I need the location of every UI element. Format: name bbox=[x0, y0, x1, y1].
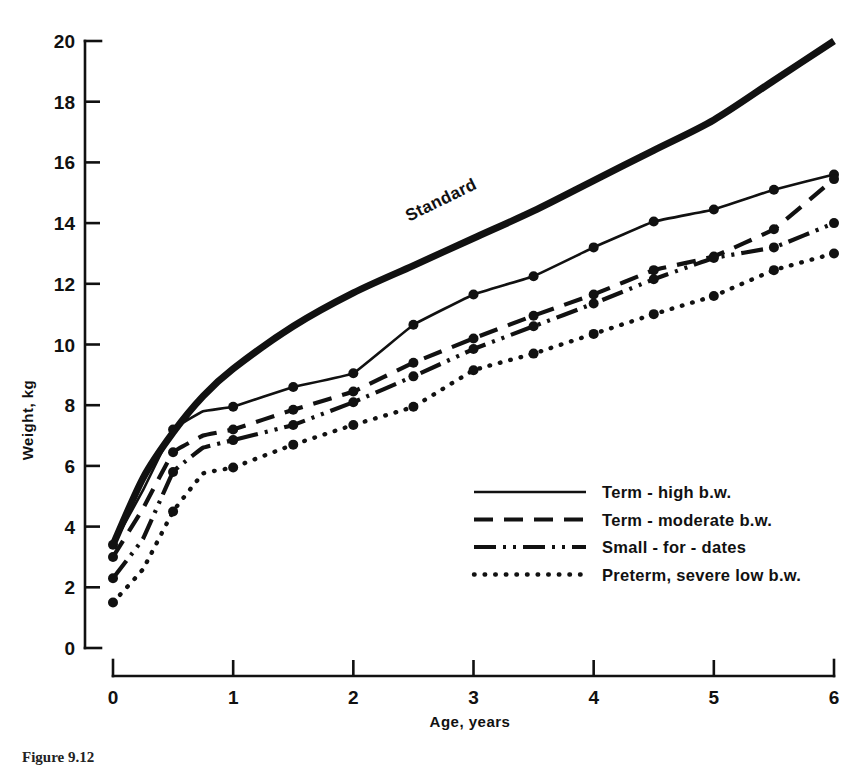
legend-item: Small - for - dates bbox=[474, 538, 746, 556]
data-point-marker bbox=[168, 447, 178, 457]
figure-container: 024681012141618200123456 Standard Term -… bbox=[0, 0, 858, 765]
x-tick-label: 1 bbox=[228, 687, 239, 708]
x-tick-label: 5 bbox=[709, 687, 720, 708]
legend-item: Preterm, severe low b.w. bbox=[474, 566, 801, 584]
y-tick-label: 14 bbox=[54, 213, 76, 234]
y-tick-label: 4 bbox=[64, 517, 75, 538]
legend-item-label: Term - moderate b.w. bbox=[602, 511, 772, 529]
data-point-marker bbox=[529, 311, 539, 321]
axes-group: 024681012141618200123456 bbox=[54, 31, 839, 708]
data-point-marker bbox=[589, 242, 599, 252]
data-point-marker bbox=[529, 349, 539, 359]
data-point-marker bbox=[709, 291, 719, 301]
y-tick-label: 8 bbox=[64, 395, 75, 416]
data-point-marker bbox=[348, 387, 358, 397]
data-point-marker bbox=[108, 597, 118, 607]
legend-item: Term - high b.w. bbox=[474, 483, 731, 501]
data-point-marker bbox=[408, 358, 418, 368]
y-axis-title: Weight, kg bbox=[19, 380, 36, 461]
data-point-marker bbox=[769, 185, 779, 195]
data-point-marker bbox=[589, 289, 599, 299]
y-tick-label: 18 bbox=[54, 92, 75, 113]
x-tick-label: 4 bbox=[588, 687, 599, 708]
data-point-marker bbox=[228, 424, 238, 434]
data-point-marker bbox=[108, 573, 118, 583]
data-point-marker bbox=[649, 217, 659, 227]
data-point-marker bbox=[168, 506, 178, 516]
growth-chart: 024681012141618200123456 Standard Term -… bbox=[0, 0, 858, 765]
y-tick-label: 0 bbox=[64, 638, 75, 659]
standard-curve-annotation: Standard bbox=[402, 175, 479, 226]
data-point-marker bbox=[408, 402, 418, 412]
x-axis-title: Age, years bbox=[430, 713, 511, 730]
annotation-group: Standard bbox=[402, 175, 479, 226]
x-tick-label: 6 bbox=[829, 687, 840, 708]
y-tick-label: 16 bbox=[54, 152, 75, 173]
data-point-marker bbox=[288, 440, 298, 450]
data-point-marker bbox=[769, 242, 779, 252]
data-point-marker bbox=[829, 174, 839, 184]
data-point-marker bbox=[288, 420, 298, 430]
data-point-marker bbox=[769, 265, 779, 275]
data-point-marker bbox=[228, 462, 238, 472]
data-point-marker bbox=[649, 274, 659, 284]
data-point-marker bbox=[168, 424, 178, 434]
x-tick-label: 0 bbox=[108, 687, 119, 708]
data-point-marker bbox=[709, 204, 719, 214]
data-point-marker bbox=[348, 397, 358, 407]
data-point-marker bbox=[408, 371, 418, 381]
legend-item: Term - moderate b.w. bbox=[474, 511, 772, 529]
data-point-marker bbox=[649, 309, 659, 319]
x-tick-label: 2 bbox=[348, 687, 359, 708]
data-point-marker bbox=[529, 271, 539, 281]
data-point-marker bbox=[589, 329, 599, 339]
x-tick-label: 3 bbox=[468, 687, 479, 708]
data-point-marker bbox=[469, 333, 479, 343]
chart-legend: Term - high b.w.Term - moderate b.w.Smal… bbox=[474, 483, 801, 584]
data-point-marker bbox=[589, 299, 599, 309]
data-point-marker bbox=[529, 321, 539, 331]
y-tick-label: 10 bbox=[54, 335, 75, 356]
data-point-marker bbox=[408, 320, 418, 330]
data-point-marker bbox=[348, 420, 358, 430]
data-point-marker bbox=[469, 365, 479, 375]
y-tick-label: 20 bbox=[54, 31, 75, 52]
data-point-marker bbox=[829, 248, 839, 258]
data-point-marker bbox=[108, 552, 118, 562]
y-tick-label: 2 bbox=[64, 577, 75, 598]
data-point-marker bbox=[228, 402, 238, 412]
data-point-marker bbox=[469, 344, 479, 354]
data-point-marker bbox=[769, 224, 779, 234]
legend-item-label: Small - for - dates bbox=[602, 538, 746, 556]
legend-item-label: Term - high b.w. bbox=[602, 483, 731, 501]
data-point-marker bbox=[709, 253, 719, 263]
data-point-marker bbox=[348, 368, 358, 378]
data-point-marker bbox=[168, 467, 178, 477]
legend-item-label: Preterm, severe low b.w. bbox=[602, 566, 801, 584]
data-point-marker bbox=[649, 265, 659, 275]
data-point-marker bbox=[288, 405, 298, 415]
data-point-marker bbox=[829, 218, 839, 228]
data-point-marker bbox=[228, 435, 238, 445]
y-tick-label: 6 bbox=[64, 456, 75, 477]
axis-labels-group: Weight, kgAge, yearsFigure 9.12 bbox=[19, 380, 510, 765]
data-point-marker bbox=[469, 289, 479, 299]
data-point-marker bbox=[288, 382, 298, 392]
y-tick-label: 12 bbox=[54, 274, 75, 295]
figure-caption: Figure 9.12 bbox=[22, 749, 94, 765]
